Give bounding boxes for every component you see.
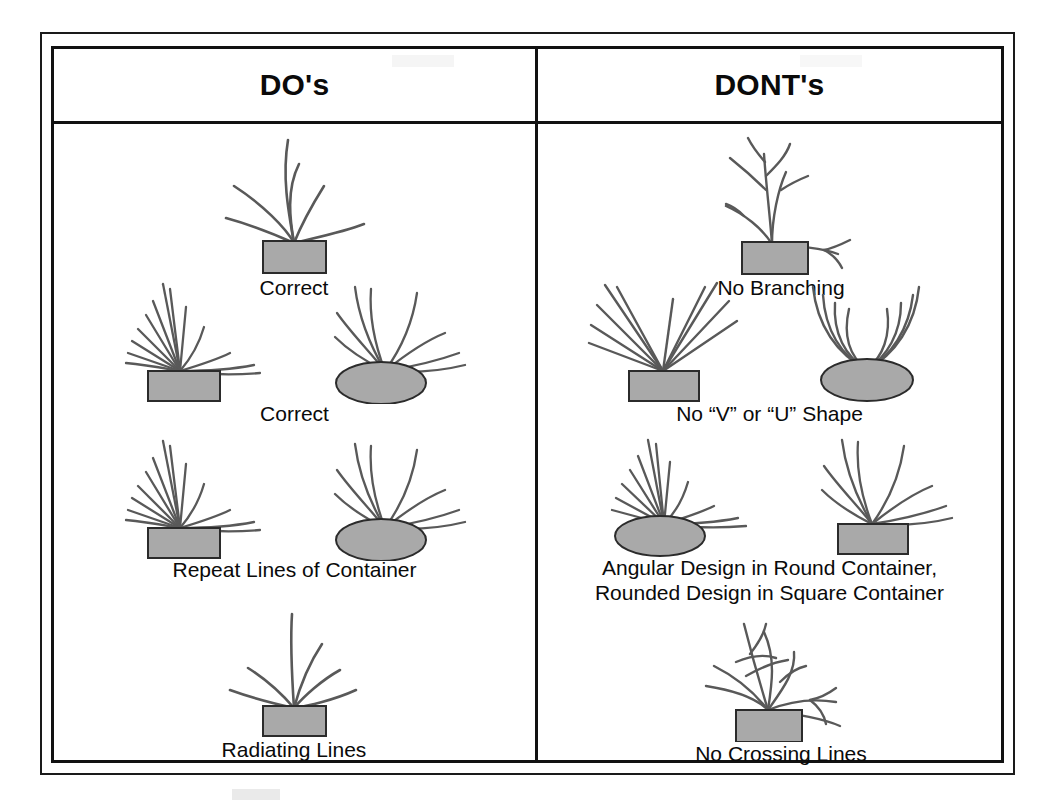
container-rectangle [148,371,220,401]
container-ellipse [336,362,426,404]
container-rectangle [629,371,699,401]
plant-art-dont-3-rounded-square [780,436,975,561]
scan-artifact-header-right [800,55,862,67]
column-dos: Correct [54,124,535,760]
page-title-dos: DO's [260,68,330,102]
container-ellipse [336,519,426,561]
plant-art-do-2-rect [108,279,293,404]
caption-dont-3-line2: Rounded Design in Square Container [538,581,1001,606]
container-rectangle [263,241,326,273]
header-cell-donts: DONT's [535,49,1001,121]
caption-row-do-3: Repeat Lines of Container [54,558,535,583]
illustration-do-1: Correct [204,128,384,301]
caption-row-do-2: Correct [54,402,535,427]
container-rectangle [742,242,808,274]
illustration-do-2 [98,279,498,404]
container-ellipse [821,359,913,401]
plant-art-dont-2-ushape [767,279,977,404]
caption-do-2: Correct [260,402,329,425]
caption-row-dont-3: Angular Design in Round Container, Round… [538,556,1001,606]
column-donts: No Branching [535,124,1001,760]
table-body-row: Correct [54,124,1001,760]
illustration-do-4: Radiating Lines [204,608,384,763]
plant-art-do-4 [204,608,384,738]
illustration-dont-1: No Branching [686,128,876,301]
plant-art-do-2-ellipse [293,279,488,404]
caption-do-4: Radiating Lines [222,738,367,763]
scan-artifact-bottom [232,789,280,800]
caption-dont-2: No “V” or “U” Shape [676,402,863,425]
plant-art-dont-1 [686,128,876,276]
do-dont-table: DO's DONT's [51,46,1004,763]
scan-artifact-header-left [392,55,454,67]
container-rectangle [736,710,802,742]
plant-art-do-3-ellipse [293,436,488,561]
container-rectangle [838,524,908,554]
illustration-dont-2 [572,279,982,404]
page-title-donts: DONT's [714,68,824,102]
caption-do-3: Repeat Lines of Container [173,558,417,581]
caption-row-dont-2: No “V” or “U” Shape [538,402,1001,427]
illustration-dont-3 [582,436,982,561]
container-ellipse [615,516,705,556]
container-rectangle [263,706,326,736]
header-cell-dos: DO's [54,49,535,121]
plant-art-dont-2-vshape [577,279,767,404]
container-rectangle [148,528,220,558]
illustration-do-3 [98,436,498,561]
plant-art-dont-3-angular-round [590,436,780,561]
caption-dont-3-line1: Angular Design in Round Container, [538,556,1001,581]
plant-art-do-1 [204,128,384,276]
illustration-dont-4: No Crossing Lines [676,614,886,767]
plant-art-dont-4 [676,614,886,742]
caption-dont-4: No Crossing Lines [695,742,867,767]
plant-art-do-3-rect [108,436,293,561]
